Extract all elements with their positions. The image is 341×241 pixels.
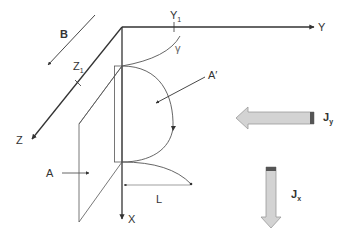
diagram-canvas (0, 0, 341, 241)
plane-a-top-edge (79, 66, 122, 124)
y-axis-label: Y (318, 22, 325, 33)
a-prime-pointer (156, 77, 205, 103)
y1-label-sub: 1 (177, 16, 181, 23)
z-axis-label: Z (16, 135, 23, 146)
region-a-prime-arc (122, 66, 173, 162)
curve-gamma (122, 36, 180, 66)
jy-arrow (236, 107, 314, 129)
b-field-arrow (48, 15, 95, 65)
jx-arrow (261, 167, 281, 228)
jx-label: Jx (291, 189, 301, 202)
z-axis (32, 27, 122, 139)
x-axis-label: X (128, 214, 135, 225)
z1-label-main: Z (73, 60, 80, 72)
bottom-curve (122, 162, 191, 184)
bottom-curve-end (190, 183, 193, 186)
y1-label: Y1 (170, 10, 181, 23)
z1-label-sub: 1 (80, 67, 84, 74)
jy-label: Jy (323, 112, 333, 125)
a-prime-label: A′ (208, 70, 217, 81)
jy-label-sub: y (329, 118, 333, 125)
strip-rectangle (115, 66, 123, 162)
l-label: L (156, 194, 162, 205)
jx-label-sub: x (297, 195, 301, 202)
b-field-label: B (60, 29, 68, 40)
a-label: A (46, 168, 53, 179)
z1-label: Z1 (73, 61, 84, 74)
arc-arrowhead (171, 126, 176, 131)
gamma-label: γ (175, 43, 181, 54)
plane-a (79, 66, 122, 222)
